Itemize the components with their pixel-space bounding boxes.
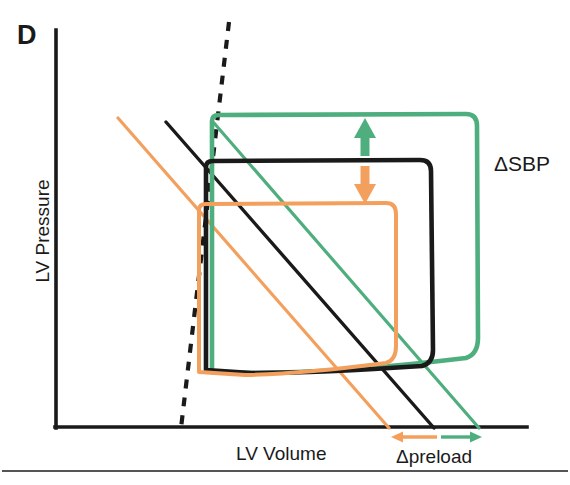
panel-letter: D bbox=[17, 20, 37, 51]
pv-loop-plot bbox=[0, 0, 570, 485]
pv-loop-baseline bbox=[206, 160, 433, 373]
y-axis-label: LV Pressure bbox=[32, 166, 54, 296]
x-axis-label: LV Volume bbox=[236, 443, 326, 465]
pv-loop-figure: D LV Pressure LV Volume ΔSBP Δpreload bbox=[0, 0, 570, 485]
ea-line-decreased bbox=[118, 118, 389, 428]
preload-increase-arrow bbox=[441, 432, 482, 443]
delta-sbp-annotation: ΔSBP bbox=[494, 152, 550, 176]
delta-preload-annotation: Δpreload bbox=[396, 446, 472, 468]
sbp-decrease-arrow bbox=[354, 166, 376, 204]
axes-group bbox=[55, 30, 527, 428]
pv-loop-increased-preload bbox=[212, 114, 478, 373]
preload-decrease-arrow bbox=[391, 432, 437, 443]
sbp-increase-arrow bbox=[354, 118, 376, 156]
